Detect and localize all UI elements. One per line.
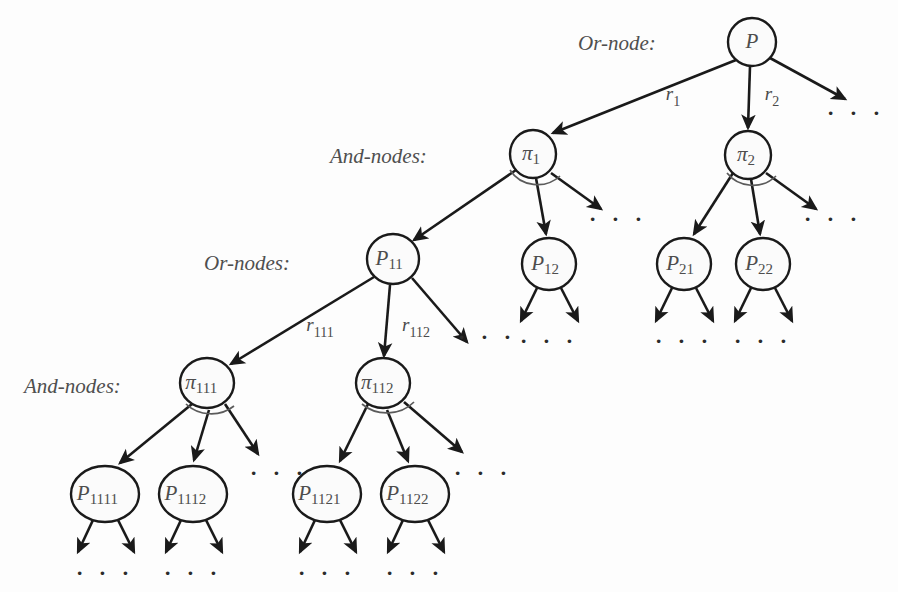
or-node-P[interactable]: P <box>728 18 776 66</box>
graph-edge <box>404 402 462 452</box>
graph-edge <box>388 520 403 552</box>
graph-edge <box>166 520 181 552</box>
and-node-pi2[interactable]: π2 <box>725 131 771 179</box>
ellipsis-dots-P: · · · <box>827 100 885 125</box>
edge-label-lbl-r111: r111 <box>306 314 333 340</box>
row-label-row-and-1: And-nodes: <box>328 144 427 168</box>
graph-edge <box>78 520 93 552</box>
graph-edge <box>751 179 760 234</box>
row-label-row-and-2: And-nodes: <box>22 374 121 398</box>
ellipsis-dots-pi111: · · · <box>250 460 308 485</box>
ellipsis-dots-P22: · · · <box>734 328 792 353</box>
and-or-graph: Pπ1π2P11P12P21P22π111π112P1111P1112P1121… <box>0 0 898 592</box>
graph-edge <box>300 520 315 552</box>
and-node-pi111[interactable]: π111 <box>180 358 234 408</box>
and-node-pi1[interactable]: π1 <box>510 130 556 178</box>
or-node-P12[interactable]: P12 <box>522 238 576 290</box>
or-node-P11[interactable]: P11 <box>367 234 419 284</box>
graph-edge <box>694 173 733 234</box>
graph-edge <box>120 404 192 463</box>
ellipsis-dots-P11: · · · <box>458 324 516 349</box>
graph-edge <box>775 288 792 321</box>
graph-edge <box>735 288 751 321</box>
row-label-row-or-1: Or-node: <box>578 31 656 55</box>
ellipsis-dots-P21: · · · <box>655 328 713 353</box>
graph-edge <box>553 60 736 133</box>
graph-edge <box>206 520 222 552</box>
or-node-P1122[interactable]: P1122 <box>381 466 449 522</box>
edge-label-lbl-r2: r2 <box>765 83 779 109</box>
graph-edge <box>770 58 845 99</box>
ellipsis-dots-pi1: · · · <box>589 206 647 231</box>
edge-label-lbl-r112: r112 <box>402 314 430 340</box>
graph-edge <box>696 288 713 321</box>
edge-label-lbl-r1: r1 <box>666 83 680 109</box>
ellipsis-dots-b3: · · · <box>298 560 356 585</box>
diagram-canvas: Pπ1π2P11P12P21P22π111π112P1111P1112P1121… <box>0 0 898 592</box>
ellipsis-dots-b4: · · · <box>386 560 444 585</box>
graph-edge <box>521 288 537 321</box>
ellipsis-dots-P12: · · · <box>520 328 578 353</box>
graph-edge <box>656 288 672 321</box>
graph-edge <box>340 520 356 552</box>
graph-edge <box>194 410 209 460</box>
graph-edge <box>384 285 390 356</box>
ellipsis-dots-b2: · · · <box>164 560 222 585</box>
ellipsis-dots-pi112: · · · <box>454 460 512 485</box>
graph-edge <box>387 410 408 461</box>
graph-edge <box>225 404 258 454</box>
or-node-P1112[interactable]: P1112 <box>159 466 227 522</box>
or-node-P1111[interactable]: P1111 <box>71 466 139 522</box>
graph-edge <box>748 66 750 128</box>
node-label: P <box>745 29 759 53</box>
graph-edge <box>536 178 546 234</box>
graph-edge <box>340 404 368 461</box>
graph-edge <box>428 520 444 552</box>
graph-edge <box>231 277 374 364</box>
ellipsis-dots-b1: · · · <box>76 560 134 585</box>
or-node-P22[interactable]: P22 <box>736 238 790 290</box>
graph-edge <box>414 170 516 240</box>
or-node-P21[interactable]: P21 <box>657 238 711 290</box>
nodes-layer: Pπ1π2P11P12P21P22π111π112P1111P1112P1121… <box>71 18 790 522</box>
and-node-pi112[interactable]: π112 <box>356 358 410 408</box>
and-arcs-layer <box>186 170 776 414</box>
graph-edge <box>561 288 578 321</box>
ellipsis-dots-pi2: · · · <box>804 206 862 231</box>
row-label-row-or-2: Or-nodes: <box>204 251 290 275</box>
graph-edge <box>118 520 134 552</box>
